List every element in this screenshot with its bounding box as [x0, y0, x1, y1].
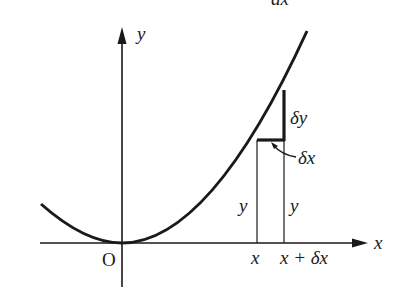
- top-cropped-label: dx: [271, 0, 290, 9]
- parabola-curve: [41, 31, 307, 243]
- height-label-right: y: [288, 195, 299, 216]
- height-label-left: y: [237, 195, 248, 216]
- tick-label-x-plus-dx: x + δx: [279, 247, 329, 268]
- x-axis-label: x: [373, 232, 383, 253]
- origin-label: O: [102, 249, 116, 270]
- y-axis-label: y: [135, 23, 146, 44]
- parabola-diagram: dx x y O δy δx y y x x + δx: [0, 0, 412, 300]
- y-axis-arrow-icon: [118, 27, 127, 44]
- delta-x-label: δx: [298, 147, 316, 168]
- delta-x-leader-arrow-icon: [271, 142, 278, 149]
- delta-y-label: δy: [290, 107, 308, 128]
- x-axis-arrow-icon: [352, 239, 368, 248]
- tick-label-x: x: [250, 247, 260, 268]
